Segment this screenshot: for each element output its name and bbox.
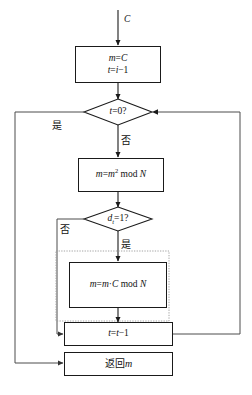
- arrowhead-loop-back: [152, 109, 158, 115]
- flowchart-canvas: C m=C t=i−1 t=0? 是 否 m=m2 mod N dt=1? 否 …: [0, 0, 252, 395]
- edge-loop-back-to-check-t: [156, 112, 240, 334]
- process-decrement-t: t=t−1: [64, 322, 173, 346]
- process-init-line-2: t=i−1: [108, 65, 129, 77]
- process-decrement-t-text: t=t−1: [108, 328, 129, 340]
- process-multiply-mod-text: m=m·C mod N: [90, 279, 147, 291]
- process-init-line-1: m=C: [109, 53, 128, 65]
- process-return-m: 返回m: [64, 352, 173, 376]
- process-return-m-text: 返回m: [105, 358, 132, 371]
- decision-check-t-zero-label: t=0?: [84, 106, 152, 116]
- decision-check-bit-label: dt=1?: [84, 213, 152, 223]
- input-label: C: [124, 14, 130, 24]
- edge-label-check-t-no: 否: [121, 132, 131, 147]
- process-square-mod-text: m=m2 mod N: [96, 169, 146, 181]
- edge-label-check-t-yes: 是: [52, 117, 62, 132]
- edge-label-check-bit-no: 否: [60, 221, 70, 236]
- process-square-mod: m=m2 mod N: [78, 158, 164, 192]
- edge-label-check-bit-yes: 是: [121, 236, 131, 251]
- process-multiply-mod: m=m·C mod N: [69, 262, 167, 308]
- process-init: m=C t=i−1: [75, 46, 161, 83]
